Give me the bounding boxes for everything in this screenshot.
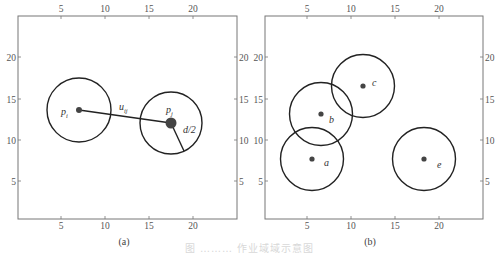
panel-b-top-tick: 15 [390, 4, 400, 14]
panel-b-top-tick: 10 [346, 4, 356, 14]
panel-a-left-tick: 20 [7, 53, 17, 63]
panel-b-left-tick: 20 [254, 53, 264, 63]
panel-b-left-tick: 10 [254, 136, 264, 146]
panel-a-bottom-tick: 10 [100, 221, 110, 231]
panel-a: 5 10 15 20 5 10 15 20 20 15 10 5 20 15 1… [7, 4, 249, 248]
panel-b-left-tick: 5 [258, 177, 263, 187]
panel-b-top-tick: 20 [434, 4, 444, 14]
panel-b-right-tick: 20 [485, 53, 495, 63]
panel-b-frame [265, 16, 483, 219]
point-c [360, 83, 365, 88]
figure-canvas: 5 10 15 20 5 10 15 20 20 15 10 5 20 15 1… [0, 0, 499, 254]
panel-b-right-tick: 10 [485, 136, 495, 146]
panel-a-top-tick: 20 [188, 4, 198, 14]
panel-a-left-tick: 10 [7, 136, 17, 146]
panel-b-bottom-tick: 5 [305, 221, 310, 231]
point-pj [166, 118, 177, 129]
panel-b: 5 10 15 20 5 10 15 20 20 15 10 5 20 15 1… [254, 4, 495, 248]
panel-a-top-tick: 5 [59, 4, 64, 14]
label-uij: uij [119, 101, 128, 114]
label-pi: pi [60, 106, 68, 119]
figure-caption: 图 ……… 作业域域示意图 [0, 240, 499, 254]
panel-a-top-tick: 15 [144, 4, 154, 14]
panel-a-bottom-tick: 5 [59, 221, 64, 231]
panel-b-left-tick: 15 [254, 95, 264, 105]
panel-a-right-tick: 15 [239, 95, 249, 105]
panel-a-left-tick: 5 [11, 177, 16, 187]
panel-b-right-tick: 15 [485, 95, 495, 105]
label-b: b [329, 114, 334, 125]
point-pi [76, 107, 82, 113]
point-e [421, 156, 426, 161]
panel-b-right-tick: 5 [485, 177, 490, 187]
point-a [309, 156, 314, 161]
panel-b-bottom-tick: 20 [434, 221, 444, 231]
panel-a-right-tick: 10 [239, 136, 249, 146]
panel-b-bottom-tick: 10 [346, 221, 356, 231]
point-b [318, 111, 323, 116]
panel-a-right-tick: 5 [239, 177, 244, 187]
label-d-half: d/2 [183, 124, 196, 135]
label-e: e [437, 159, 442, 170]
panel-b-top-tick: 5 [305, 4, 310, 14]
label-pj: pj [165, 104, 173, 117]
label-a: a [324, 157, 329, 168]
label-c: c [372, 77, 377, 88]
panel-a-left-tick: 15 [7, 95, 17, 105]
panel-a-right-tick: 20 [239, 53, 249, 63]
panel-a-bottom-tick: 15 [144, 221, 154, 231]
panel-a-top-tick: 10 [100, 4, 110, 14]
panel-a-bottom-tick: 20 [188, 221, 198, 231]
panel-b-bottom-tick: 15 [390, 221, 400, 231]
